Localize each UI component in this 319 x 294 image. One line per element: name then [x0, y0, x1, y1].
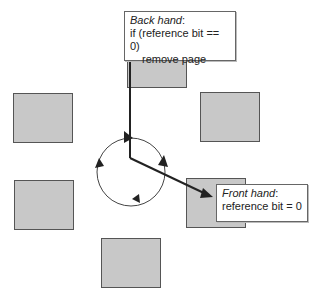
front-hand-action: reference bit = 0	[222, 200, 302, 213]
back-hand-callout: Back hand: if (reference bit == 0) remov…	[124, 11, 236, 61]
arrowhead-icon	[95, 158, 104, 168]
back-hand-action: remove page	[130, 53, 230, 66]
front-hand-arrowhead-icon	[200, 188, 213, 198]
back-hand-title: Back hand	[130, 14, 182, 26]
arrowhead-icon	[124, 131, 133, 143]
front-hand-line	[130, 158, 206, 194]
front-hand-title: Front hand	[222, 187, 275, 199]
arrowhead-icon	[132, 194, 140, 203]
arrowhead-icon	[158, 155, 168, 167]
back-hand-condition: if (reference bit == 0)	[130, 27, 230, 53]
front-hand-callout: Front hand: reference bit = 0	[216, 184, 308, 222]
